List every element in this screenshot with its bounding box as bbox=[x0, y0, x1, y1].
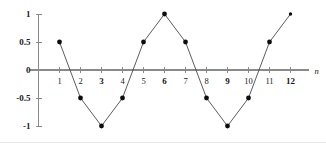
x-tick-label: 9 bbox=[225, 76, 230, 86]
x-axis-name-label: n bbox=[314, 66, 318, 76]
y-tick-label: 0.5 bbox=[19, 37, 31, 47]
plot-area: 123456789101112 10.50-0.5-1 n bbox=[0, 0, 326, 143]
data-point-marker bbox=[204, 96, 209, 101]
x-tick-label: 3 bbox=[99, 76, 104, 86]
data-point-marker bbox=[120, 96, 125, 101]
data-point-marker bbox=[141, 40, 146, 45]
data-point-marker bbox=[183, 40, 188, 45]
x-tick-label: 1 bbox=[57, 76, 61, 86]
x-tick-label: 8 bbox=[204, 76, 208, 86]
y-tick-label: -1 bbox=[23, 121, 31, 131]
data-point-marker bbox=[225, 124, 230, 129]
x-axis-name-group: n bbox=[314, 66, 318, 76]
x-tick-label: 11 bbox=[265, 76, 273, 86]
axes-group bbox=[30, 14, 310, 126]
x-tick-label: 5 bbox=[141, 76, 145, 86]
x-tick-label: 10 bbox=[244, 76, 253, 86]
x-tick-label: 2 bbox=[78, 76, 82, 86]
x-tick-label: 12 bbox=[286, 76, 296, 86]
data-point-marker bbox=[267, 40, 272, 45]
data-point-marker bbox=[57, 40, 62, 45]
x-tick-label: 4 bbox=[120, 76, 125, 86]
data-point-marker bbox=[289, 12, 292, 15]
x-tick-labels-group: 123456789101112 bbox=[57, 76, 295, 86]
y-tick-label: 0 bbox=[26, 65, 31, 75]
data-point-marker bbox=[99, 124, 104, 129]
x-tick-label: 6 bbox=[162, 76, 167, 86]
y-tick-label: -0.5 bbox=[16, 93, 31, 103]
data-point-marker bbox=[162, 12, 167, 17]
data-point-marker bbox=[78, 96, 83, 101]
x-tick-label: 7 bbox=[183, 76, 187, 86]
y-tick-label: 1 bbox=[26, 9, 31, 19]
sampled-cosine-chart: 123456789101112 10.50-0.5-1 n bbox=[0, 0, 326, 143]
data-point-marker bbox=[246, 96, 251, 101]
y-tick-labels-group: 10.50-0.5-1 bbox=[16, 9, 31, 131]
